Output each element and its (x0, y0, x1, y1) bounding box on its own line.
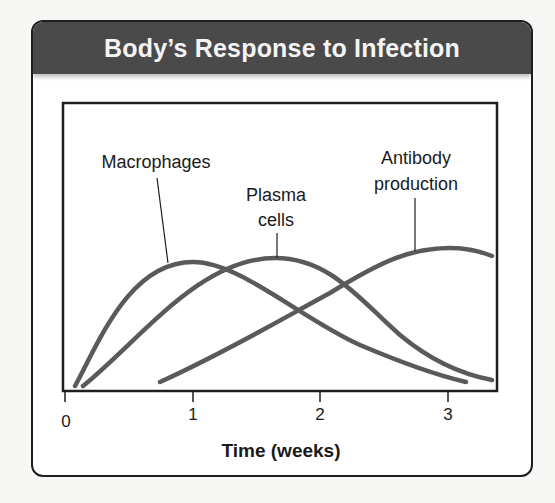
antibody-label-line2: production (374, 174, 458, 194)
x-tick-label: 0 (61, 412, 70, 431)
x-tick-label: 2 (315, 405, 324, 424)
x-ticks (65, 391, 448, 402)
macrophages-label: Macrophages (101, 152, 210, 172)
antibody-label-line1: Antibody (381, 148, 451, 168)
chart-svg: 0 1 2 3 Time (weeks) Macrophages Plasma … (0, 0, 555, 503)
curves (75, 248, 492, 386)
plasma-cells-label-line1: Plasma (246, 185, 307, 205)
plasma-cells-curve (83, 258, 492, 386)
x-axis-label: Time (weeks) (222, 440, 341, 461)
plasma-cells-label-line2: cells (258, 210, 294, 230)
x-tick-label: 3 (443, 405, 452, 424)
x-tick-label: 1 (188, 405, 197, 424)
